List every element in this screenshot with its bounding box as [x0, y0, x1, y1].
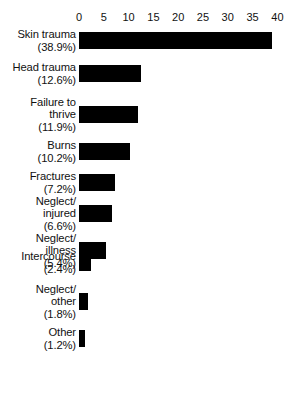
category-label: Intercourse(2.4%): [0, 250, 76, 275]
category-label-line: Skin trauma: [0, 28, 76, 40]
category-percent: (7.2%): [0, 183, 76, 195]
category-label-line: Other: [0, 326, 76, 338]
bar: [79, 32, 272, 49]
chart-row: Head trauma(12.6%): [0, 65, 290, 82]
category-label-line: Neglect/: [0, 232, 76, 244]
chart-row: Failure tothrive(11.9%): [0, 106, 290, 123]
chart-row: Other(1.2%): [0, 330, 290, 347]
bar: [79, 65, 141, 82]
category-label: Skin trauma(38.9%): [0, 28, 76, 53]
chart-row: Intercourse(2.4%): [0, 254, 290, 271]
category-label-line: Burns: [0, 139, 76, 151]
category-label-line: other: [0, 295, 76, 307]
category-percent: (12.6%): [0, 74, 76, 86]
category-label-line: Fractures: [0, 170, 76, 182]
category-percent: (2.4%): [0, 263, 76, 275]
chart-row: Fractures(7.2%): [0, 174, 290, 191]
bar-chart: 0510152025303540 Skin trauma(38.9%)Head …: [0, 0, 290, 403]
category-label: Burns(10.2%): [0, 139, 76, 164]
bar: [79, 174, 115, 191]
category-percent: (38.9%): [0, 41, 76, 53]
chart-rows: Skin trauma(38.9%)Head trauma(12.6%)Fail…: [0, 0, 290, 403]
chart-row: Skin trauma(38.9%): [0, 32, 290, 49]
category-percent: (6.6%): [0, 220, 76, 232]
bar: [79, 254, 91, 271]
category-label: Fractures(7.2%): [0, 170, 76, 195]
chart-row: Neglect/injured(6.6%): [0, 205, 290, 222]
chart-row: Burns(10.2%): [0, 143, 290, 160]
category-label-line: Neglect/: [0, 195, 76, 207]
category-percent: (1.8%): [0, 308, 76, 320]
bar: [79, 330, 85, 347]
bar: [79, 205, 112, 222]
category-label: Neglect/injured(6.6%): [0, 195, 76, 232]
category-percent: (1.2%): [0, 339, 76, 351]
category-label-line: Neglect/: [0, 283, 76, 295]
category-label-line: Head trauma: [0, 61, 76, 73]
category-label: Neglect/other(1.8%): [0, 283, 76, 320]
category-label-line: thrive: [0, 108, 76, 120]
category-percent: (10.2%): [0, 152, 76, 164]
category-percent: (11.9%): [0, 121, 76, 133]
category-label-line: Intercourse: [0, 250, 76, 262]
chart-row: Neglect/other(1.8%): [0, 293, 290, 310]
category-label-line: injured: [0, 207, 76, 219]
bar: [79, 106, 138, 123]
category-label: Other(1.2%): [0, 326, 76, 351]
category-label-line: Failure to: [0, 96, 76, 108]
category-label: Head trauma(12.6%): [0, 61, 76, 86]
bar: [79, 143, 130, 160]
bar: [79, 293, 88, 310]
category-label: Failure tothrive(11.9%): [0, 96, 76, 133]
